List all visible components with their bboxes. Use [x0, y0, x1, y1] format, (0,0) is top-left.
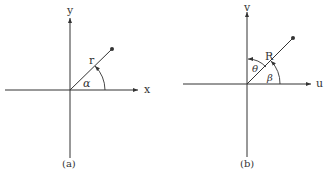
angle-arc-alpha — [95, 66, 105, 90]
angle-label-theta: θ — [252, 63, 258, 74]
caption-a: (a) — [62, 158, 76, 169]
panel-a: x y r α (a) — [5, 4, 151, 169]
point-b — [291, 36, 295, 40]
radius-label-a: r — [89, 54, 95, 67]
caption-b: (b) — [240, 158, 254, 169]
angle-label-beta: β — [266, 72, 273, 83]
x-axis-label-a: x — [144, 83, 151, 96]
v-axis-label-b: v — [243, 1, 251, 14]
point-a — [110, 47, 114, 51]
y-axis-label-a: y — [66, 4, 74, 17]
radius-label-b: R — [265, 50, 274, 63]
panel-b: u v R θ β (b) — [183, 1, 323, 169]
angle-label-alpha: α — [83, 77, 91, 90]
u-axis-label-b: u — [316, 77, 323, 90]
